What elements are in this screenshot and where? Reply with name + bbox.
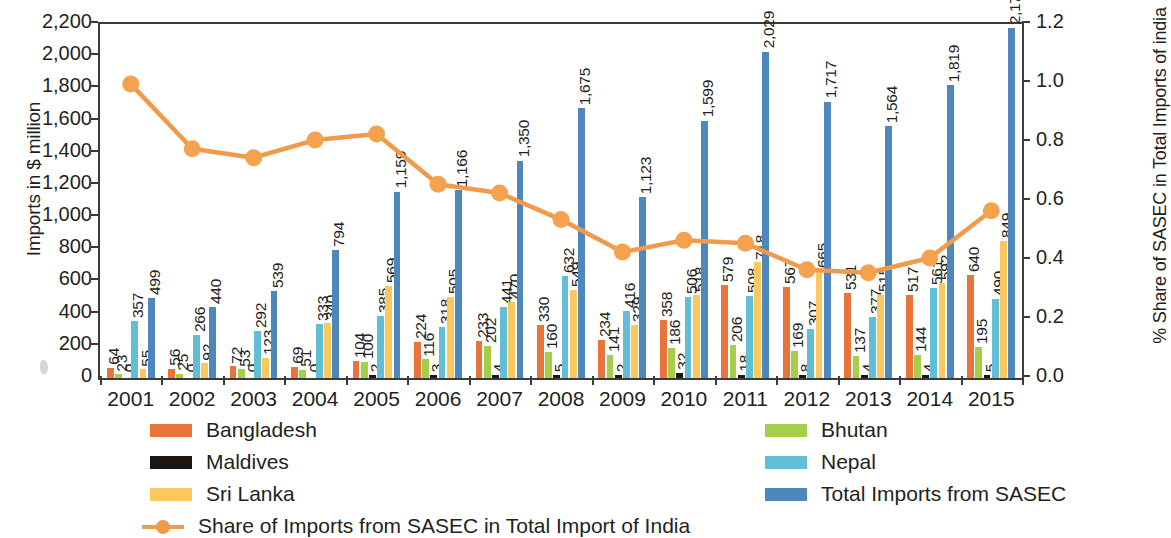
bar-sri-lanka xyxy=(939,283,946,378)
y-tick-label-left: 2,200 xyxy=(2,11,92,31)
y-tick-mark-left xyxy=(90,150,98,152)
legend-color-swatch-icon xyxy=(150,488,192,501)
bar-value-label: 292 xyxy=(253,303,269,328)
bar-value-label: 202 xyxy=(483,318,499,343)
legend-item-label: Share of Imports from SASEC in Total Imp… xyxy=(198,514,690,538)
y-tick-label-left: 200 xyxy=(2,333,92,353)
bar-nepal xyxy=(930,288,937,378)
bar-value-label: 499 xyxy=(147,270,163,295)
y-tick-mark-left xyxy=(90,214,98,216)
bar-total-imports-from-sasec xyxy=(332,250,339,378)
y-tick-label-left: 2,000 xyxy=(2,43,92,63)
bar-sri-lanka xyxy=(877,295,884,378)
y-tick-mark-left xyxy=(90,21,98,23)
bar-sri-lanka xyxy=(816,271,823,378)
plot-inner: 6456726910422423333023435857956753151764… xyxy=(100,24,1022,378)
legend-line-swatch-icon xyxy=(142,519,184,533)
bar-sri-lanka xyxy=(693,295,700,378)
bar-value-label: 640 xyxy=(966,247,982,272)
bar-value-label: 1,675 xyxy=(577,68,593,105)
bar-sri-lanka xyxy=(201,363,208,378)
bar-value-label: 794 xyxy=(331,222,347,247)
bar-total-imports-from-sasec xyxy=(639,197,646,378)
bar-value-label: 100 xyxy=(360,334,376,359)
y-tick-label-right: 0.6 xyxy=(1036,188,1106,208)
bar-value-label: 330 xyxy=(536,297,552,322)
bar-total-imports-from-sasec xyxy=(517,161,524,378)
y-tick-mark-left xyxy=(90,53,98,55)
bar-nepal xyxy=(316,324,323,378)
legend-item-maldives[interactable]: Maldives xyxy=(150,450,289,474)
bar-total-imports-from-sasec xyxy=(762,52,769,378)
bar-total-imports-from-sasec xyxy=(209,307,216,378)
legend-color-swatch-icon xyxy=(765,424,807,437)
bar-value-label: 160 xyxy=(544,324,560,349)
bar-sri-lanka xyxy=(385,286,392,378)
bar-bhutan xyxy=(975,347,982,378)
y-tick-label-right: 1.0 xyxy=(1036,70,1106,90)
legend-item-share-of-imports-from-sasec-in-total-import-of-india[interactable]: Share of Imports from SASEC in Total Imp… xyxy=(142,514,690,538)
legend-color-swatch-icon xyxy=(765,488,807,501)
bar-value-label: 206 xyxy=(729,317,745,342)
y-tick-mark-left xyxy=(90,182,98,184)
y-tick-mark-left xyxy=(90,278,98,280)
bar-total-imports-from-sasec xyxy=(455,190,462,378)
bar-nepal xyxy=(439,327,446,378)
bar-sri-lanka xyxy=(631,325,638,378)
y-tick-label-right: 1.2 xyxy=(1036,11,1106,31)
y-tick-label-left: 800 xyxy=(2,236,92,256)
bar-value-label: 141 xyxy=(606,327,622,352)
bar-sri-lanka xyxy=(262,358,269,378)
legend-item-label: Sri Lanka xyxy=(206,482,295,506)
legend-item-total-imports-from-sasec[interactable]: Total Imports from SASEC xyxy=(765,482,1066,506)
bar-nepal xyxy=(807,329,814,378)
bar-maldives xyxy=(676,373,683,378)
bar-nepal xyxy=(869,317,876,378)
bar-value-label: 579 xyxy=(720,257,736,282)
legend-item-label: Bhutan xyxy=(821,418,888,442)
y-tick-label-right: 0.2 xyxy=(1036,306,1106,326)
y-tick-label-left: 1,200 xyxy=(2,172,92,192)
y-tick-mark-left xyxy=(90,311,98,313)
y-tick-label-left: 0 xyxy=(2,365,92,385)
bar-sri-lanka xyxy=(447,297,454,378)
legend-item-sri-lanka[interactable]: Sri Lanka xyxy=(150,482,295,506)
bar-nepal xyxy=(685,297,692,378)
y-tick-label-left: 600 xyxy=(2,268,92,288)
bar-value-label: 440 xyxy=(208,279,224,304)
bar-value-label: 2,029 xyxy=(761,11,777,48)
bar-bhutan xyxy=(115,374,122,378)
bar-bhutan xyxy=(484,346,491,379)
bar-value-label: 144 xyxy=(913,327,929,352)
bar-bangladesh xyxy=(476,341,483,378)
bar-sri-lanka xyxy=(570,290,577,378)
y-tick-mark-left xyxy=(90,85,98,87)
bar-nepal xyxy=(746,296,753,378)
y-tick-mark-left xyxy=(90,246,98,248)
y-tick-label-left: 1,600 xyxy=(2,108,92,128)
legend-item-bangladesh[interactable]: Bangladesh xyxy=(150,418,317,442)
bar-value-label: 1,166 xyxy=(454,150,470,187)
bar-bangladesh xyxy=(230,366,237,378)
bar-bangladesh xyxy=(291,367,298,378)
bar-value-label: 1,599 xyxy=(700,80,716,117)
bar-value-label: 169 xyxy=(790,323,806,348)
bar-total-imports-from-sasec xyxy=(701,121,708,378)
legend-item-nepal[interactable]: Nepal xyxy=(765,450,876,474)
bar-value-label: 567 xyxy=(782,259,798,284)
bar-value-label: 539 xyxy=(270,263,286,288)
bar-sri-lanka xyxy=(324,323,331,378)
bar-total-imports-from-sasec xyxy=(394,192,401,378)
bar-value-label: 266 xyxy=(192,307,208,332)
bar-value-label: 517 xyxy=(905,267,921,292)
bar-sri-lanka xyxy=(1000,241,1007,378)
bar-maldives xyxy=(984,375,991,378)
bar-total-imports-from-sasec xyxy=(271,291,278,378)
bar-value-label: 1,123 xyxy=(638,157,654,194)
bar-nepal xyxy=(377,316,384,378)
bar-nepal xyxy=(500,307,507,378)
legend-item-bhutan[interactable]: Bhutan xyxy=(765,418,888,442)
legend-color-swatch-icon xyxy=(765,456,807,469)
y-axis-right-title: % Share of SASEC in Total Imports of ind… xyxy=(1150,1,1171,351)
